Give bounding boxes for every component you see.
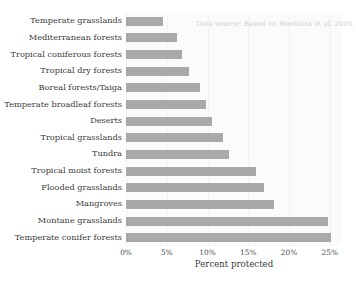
x-axis-tick-label: 25% <box>322 248 338 257</box>
plot-area <box>126 13 342 246</box>
x-axis-tick-label: 10% <box>199 248 215 257</box>
y-axis-label: Boreal forests/Taiga <box>0 83 122 92</box>
data-source-note: Data source: Based on Hoekstra et al. 20… <box>196 20 355 28</box>
bar[interactable] <box>126 233 331 242</box>
y-axis-label: Tropical dry forests <box>0 66 122 75</box>
y-axis-label: Temperate grasslands <box>0 16 122 25</box>
bar-row[interactable] <box>126 46 342 63</box>
bar-row[interactable] <box>126 96 342 113</box>
y-axis-label: Deserts <box>0 116 122 125</box>
y-axis-label: Mangroves <box>0 199 122 208</box>
x-axis-tick-label: 0% <box>120 248 132 257</box>
bar[interactable] <box>126 50 182 59</box>
y-axis-label: Tropical moist forests <box>0 166 122 175</box>
y-axis-label: Tropical coniferous forests <box>0 50 122 59</box>
y-axis-label: Temperate broadleaf forests <box>0 100 122 109</box>
bar[interactable] <box>126 117 212 126</box>
y-axis-label: Tropical grasslands <box>0 133 122 142</box>
y-axis-label: Flooded grasslands <box>0 183 122 192</box>
bar[interactable] <box>126 200 274 209</box>
y-axis-label: Mediterranean forests <box>0 33 122 42</box>
bar-row[interactable] <box>126 163 342 180</box>
bar[interactable] <box>126 17 163 26</box>
bar[interactable] <box>126 33 177 42</box>
y-axis-category-labels: Temperate grasslandsMediterranean forest… <box>0 13 122 246</box>
bar[interactable] <box>126 167 256 176</box>
bar[interactable] <box>126 217 328 226</box>
y-axis-label: Temperate conifer forests <box>0 233 122 242</box>
bar[interactable] <box>126 100 206 109</box>
bar-row[interactable] <box>126 196 342 213</box>
bar[interactable] <box>126 183 264 192</box>
x-axis-tick-label: 15% <box>240 248 256 257</box>
bar-row[interactable] <box>126 213 342 230</box>
bar-row[interactable] <box>126 113 342 130</box>
bar-row[interactable] <box>126 80 342 97</box>
bar-series <box>126 13 342 246</box>
x-axis-tick-label: 5% <box>161 248 173 257</box>
bar[interactable] <box>126 67 189 76</box>
bar-chart: Temperate grasslandsMediterranean forest… <box>0 0 356 285</box>
bar-row[interactable] <box>126 229 342 246</box>
y-axis-label: Tundra <box>0 149 122 158</box>
x-axis-tick-label: 20% <box>281 248 297 257</box>
bar[interactable] <box>126 83 200 92</box>
bar-row[interactable] <box>126 30 342 47</box>
bar[interactable] <box>126 133 223 142</box>
bar[interactable] <box>126 150 229 159</box>
bar-row[interactable] <box>126 63 342 80</box>
bar-row[interactable] <box>126 146 342 163</box>
bar-row[interactable] <box>126 130 342 147</box>
y-axis-label: Montane grasslands <box>0 216 122 225</box>
x-axis-tick-labels: 0%5%10%15%20%25% <box>126 246 342 260</box>
x-axis-title: Percent protected <box>126 259 342 269</box>
bar-row[interactable] <box>126 179 342 196</box>
